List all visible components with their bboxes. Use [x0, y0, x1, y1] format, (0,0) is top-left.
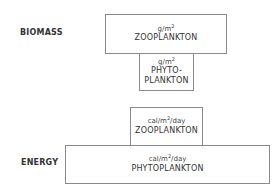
energy-phytoplankton-unit: cal/m2/day [149, 155, 187, 164]
biomass-phytoplankton-unit: g/m2 [158, 58, 175, 67]
energy-zooplankton-box: cal/m2/day ZOOPLANKTON [130, 107, 203, 146]
biomass-zooplankton-unit: g/m2 [158, 25, 175, 34]
energy-label: ENERGY [21, 158, 58, 167]
biomass-zooplankton-name: ZOOPLANKTON [135, 33, 198, 43]
biomass-label: BIOMASS [20, 28, 63, 37]
biomass-phytoplankton-name-line2: PLANKTON [144, 76, 188, 86]
biomass-phytoplankton-name-line1: PHYTO- [151, 66, 182, 76]
energy-phytoplankton-name: PHYTOPLANKTON [131, 164, 203, 174]
energy-zooplankton-unit: cal/m2/day [148, 117, 186, 126]
biomass-zooplankton-box: g/m2 ZOOPLANKTON [105, 14, 227, 54]
energy-zooplankton-name: ZOOPLANKTON [135, 126, 198, 136]
energy-phytoplankton-box: cal/m2/day PHYTOPLANKTON [65, 145, 270, 184]
biomass-phytoplankton-box: g/m2 PHYTO- PLANKTON [139, 53, 194, 91]
